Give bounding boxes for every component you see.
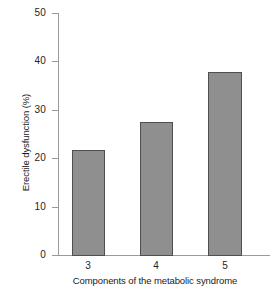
bar-chart-figure: 50 40 30 20 10 0 3 4 5 Components of the… — [0, 0, 279, 294]
y-tick-mark-20 — [52, 158, 59, 159]
x-tick-label-4: 4 — [136, 260, 176, 271]
y-tick-label-0: 0 — [6, 250, 46, 260]
y-tick-mark-10 — [52, 207, 59, 208]
bar-category-3 — [72, 150, 105, 256]
y-axis-title: Erectile dysfunction (%) — [20, 63, 31, 223]
x-axis-title: Components of the metabolic syndrome — [40, 275, 270, 286]
y-tick-mark-30 — [52, 110, 59, 111]
y-tick-label-50: 50 — [6, 8, 46, 18]
x-tick-label-3: 3 — [68, 260, 108, 271]
y-tick-mark-40 — [52, 61, 59, 62]
plot-area: 50 40 30 20 10 0 3 4 5 Components of the… — [0, 0, 279, 294]
bar-category-4 — [140, 122, 173, 256]
y-tick-mark-0 — [52, 255, 59, 256]
bar-category-5 — [208, 72, 242, 256]
x-tick-label-5: 5 — [205, 260, 245, 271]
y-axis-line — [58, 13, 59, 256]
y-tick-mark-50 — [52, 13, 59, 14]
